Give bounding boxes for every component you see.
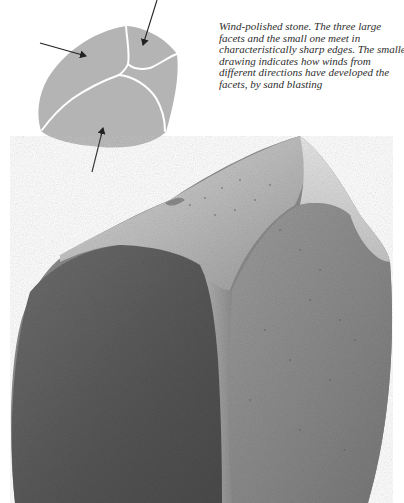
caption-line: characteristically sharp edges. The smal…	[219, 44, 404, 56]
figure-caption: Wind-polished stone. The three large fac…	[219, 21, 404, 90]
stone-photograph	[0, 120, 404, 503]
caption-line: facets, by sand blasting	[219, 79, 404, 91]
caption-line: different directions have developed the	[219, 67, 404, 79]
caption-line: Wind-polished stone. The three large	[219, 21, 404, 33]
stone-dark-face	[12, 245, 222, 503]
